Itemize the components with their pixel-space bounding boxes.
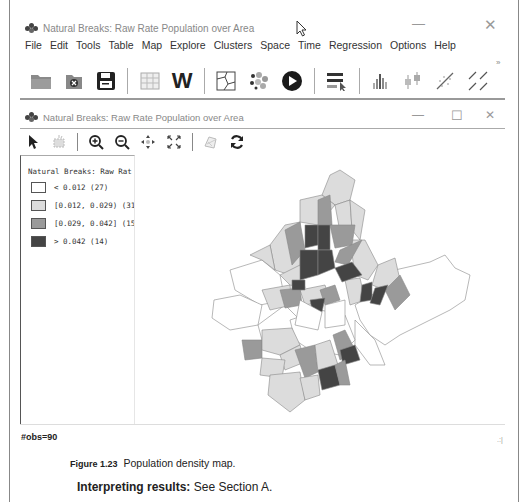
toolbar-separator <box>127 68 128 94</box>
interpreting-text: See Section A. <box>194 480 273 494</box>
legend-swatch <box>31 200 46 211</box>
page-border-right <box>518 0 519 502</box>
toolbar-separator <box>359 68 360 94</box>
menu-help[interactable]: Help <box>434 39 456 51</box>
toolbar-divider <box>20 98 505 100</box>
refresh-icon <box>229 134 245 150</box>
adjust-button[interactable] <box>203 134 219 150</box>
pan-icon <box>140 134 156 150</box>
mouse-cursor-icon <box>296 20 308 38</box>
boxplot-button[interactable] <box>403 68 424 94</box>
fit-extent-button[interactable] <box>166 134 182 150</box>
child-minimize-button[interactable]: — <box>412 108 424 122</box>
menu-bar: File Edit Tools Table Map Explore Cluste… <box>25 39 464 51</box>
legend-swatch <box>31 236 46 247</box>
clusters-button[interactable] <box>248 68 270 94</box>
child-maximize-button[interactable]: ☐ <box>451 108 463 123</box>
child-window-title: Natural Breaks: Raw Rate Population over… <box>43 112 244 123</box>
menu-space[interactable]: Space <box>260 39 290 51</box>
refresh-button[interactable] <box>229 134 245 150</box>
select-pointer-icon <box>27 134 39 150</box>
main-close-button[interactable]: ✕ <box>484 16 497 34</box>
map-legend: Natural Breaks: Raw Rat < 0.012 (27) [0.… <box>20 155 135 425</box>
selection-icon <box>326 71 348 91</box>
map-icon <box>216 71 236 91</box>
legend-swatch <box>31 182 46 193</box>
histogram-icon <box>371 71 391 91</box>
legend-label: [0.029, 0.042] (15 <box>54 219 135 228</box>
resize-grip[interactable]: .:| <box>497 436 503 443</box>
pan-button[interactable] <box>140 134 156 150</box>
scatterplot-matrix-button[interactable] <box>467 68 489 94</box>
close-datasource-icon <box>65 72 83 90</box>
toolbar-separator <box>204 68 205 94</box>
main-window-title: Natural Breaks: Raw Rate Population over… <box>43 23 254 34</box>
menu-edit[interactable]: Edit <box>50 39 68 51</box>
menu-time[interactable]: Time <box>298 39 321 51</box>
choropleth-map <box>136 155 506 425</box>
close-datasource-button[interactable] <box>63 68 84 94</box>
scatterplot-matrix-icon <box>467 70 489 92</box>
legend-label: [0.012, 0.029) (31 <box>54 201 135 210</box>
boxplot-icon <box>403 71 423 91</box>
fit-extent-icon <box>166 134 182 150</box>
select-by-rect-icon <box>51 134 67 150</box>
menu-clusters[interactable]: Clusters <box>214 39 253 51</box>
main-minimize-button[interactable]: — <box>412 16 425 31</box>
page-border-left <box>9 0 10 502</box>
figure-text: Population density map. <box>123 457 235 469</box>
open-folder-icon <box>30 72 52 90</box>
save-icon <box>96 71 116 91</box>
legend-item-class-4[interactable]: > 0.042 (14) <box>31 235 134 248</box>
observation-count: #obs=90 <box>21 432 57 442</box>
save-button[interactable] <box>95 68 116 94</box>
legend-label: < 0.012 (27) <box>54 183 108 192</box>
legend-label: > 0.042 (14) <box>54 237 108 246</box>
zoom-out-icon <box>114 134 130 150</box>
main-toolbar: W <box>30 66 500 96</box>
menu-explore[interactable]: Explore <box>170 39 206 51</box>
legend-item-class-2[interactable]: [0.012, 0.029) (31 <box>31 199 134 212</box>
select-by-rect-button[interactable] <box>51 134 67 150</box>
child-title-divider <box>20 128 505 129</box>
menu-map[interactable]: Map <box>142 39 162 51</box>
histogram-button[interactable] <box>370 68 391 94</box>
menu-options[interactable]: Options <box>390 39 426 51</box>
child-close-button[interactable]: ✕ <box>485 108 495 122</box>
toolbar-separator <box>314 68 315 94</box>
open-button[interactable] <box>30 68 52 94</box>
table-button[interactable] <box>139 68 160 94</box>
map-toolbar <box>25 133 255 151</box>
child-window-title-bar: Natural Breaks: Raw Rate Population over… <box>25 110 244 124</box>
figure-label: Figure 1.23 <box>70 459 118 469</box>
menu-tools[interactable]: Tools <box>76 39 101 51</box>
selection-button[interactable] <box>326 68 348 94</box>
interpreting-label: Interpreting results: <box>77 480 190 494</box>
zoom-in-button[interactable] <box>88 134 104 150</box>
scatterplot-button[interactable] <box>435 68 456 94</box>
interpreting-results: Interpreting results: See Section A. <box>77 480 272 494</box>
select-pointer-button[interactable] <box>25 134 41 150</box>
weights-button[interactable]: W <box>171 68 192 94</box>
map-toolbar-separator <box>77 133 78 151</box>
zoom-out-button[interactable] <box>114 134 130 150</box>
play-button[interactable] <box>281 68 303 94</box>
legend-swatch <box>31 218 46 229</box>
map-button[interactable] <box>216 68 237 94</box>
legend-title: Natural Breaks: Raw Rat <box>28 167 134 176</box>
clusters-icon <box>248 71 270 91</box>
menu-regression[interactable]: Regression <box>329 39 382 51</box>
legend-item-class-1[interactable]: < 0.012 (27) <box>31 181 134 194</box>
menu-table[interactable]: Table <box>109 39 134 51</box>
map-toolbar-separator <box>192 133 193 151</box>
menu-file[interactable]: File <box>25 39 42 51</box>
choropleth-map-canvas[interactable] <box>136 155 506 425</box>
legend-item-class-3[interactable]: [0.029, 0.042] (15 <box>31 217 134 230</box>
geoda-app-icon <box>25 112 39 122</box>
table-icon <box>140 72 160 90</box>
play-icon <box>281 70 303 92</box>
scatterplot-icon <box>435 71 455 91</box>
figure-caption: Figure 1.23 Population density map. <box>70 457 236 469</box>
toolbar-overflow-button[interactable]: » <box>496 58 500 67</box>
status-divider <box>20 424 505 425</box>
